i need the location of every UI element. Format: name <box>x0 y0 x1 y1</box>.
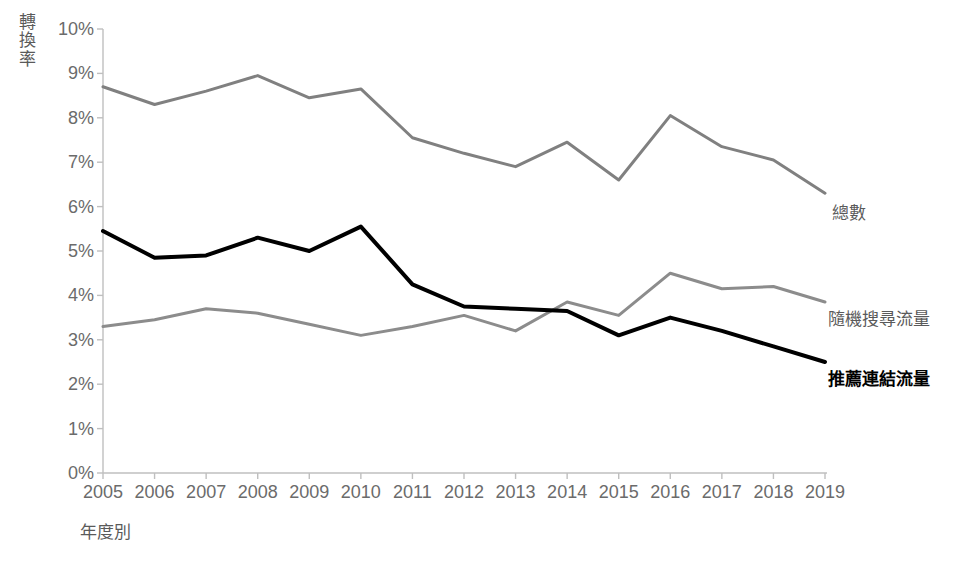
series-line-推薦連結流量 <box>103 227 825 362</box>
legend-label-總數: 總數 <box>832 199 866 224</box>
series-line-總數 <box>103 76 825 194</box>
plot-area <box>0 0 963 565</box>
legend-label-推薦連結流量: 推薦連結流量 <box>828 365 930 390</box>
series-line-隨機搜尋流量 <box>103 273 825 335</box>
conversion-rate-line-chart: 轉 換 率 0%1%2%3%4%5%6%7%8%9%10% 2005200620… <box>0 0 963 565</box>
legend-label-隨機搜尋流量: 隨機搜尋流量 <box>828 305 930 330</box>
